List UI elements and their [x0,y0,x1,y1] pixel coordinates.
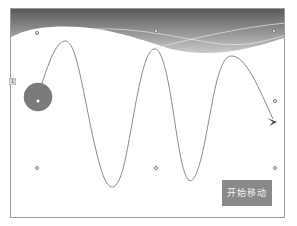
start-moving-button[interactable]: 开始移动 [222,180,272,206]
resize-handle-bottom-center[interactable] [154,166,158,170]
header-wave [11,9,285,53]
resize-handle-top-right[interactable] [272,29,276,33]
resize-handle-top-left[interactable] [35,31,39,35]
animation-order-tag[interactable]: 1 [9,78,16,85]
animated-object-circle [24,83,52,111]
resize-handle-bottom-right[interactable] [273,166,277,170]
end-arrow-icon [267,118,277,126]
resize-handle-bottom-left[interactable] [35,166,39,170]
resize-handle-top-center[interactable] [154,29,158,33]
resize-handle-middle-right[interactable] [273,99,277,103]
